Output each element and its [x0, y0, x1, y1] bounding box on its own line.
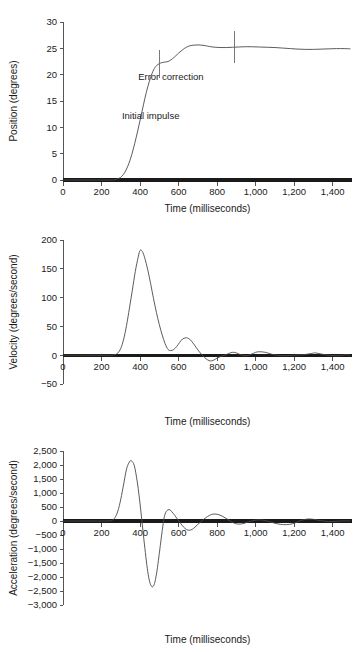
panel-position: 05101520253002004006008001,0001,2001,400… [0, 0, 362, 218]
x-tick-label: 600 [171, 527, 187, 538]
x-tick-label: 400 [132, 186, 148, 197]
kinematics-figure: 05101520253002004006008001,0001,2001,400… [0, 0, 362, 652]
y-tick-label: 0 [52, 350, 57, 361]
x-axis-title: Time (milliseconds) [165, 203, 251, 214]
x-tick-label: 1,200 [282, 527, 306, 538]
x-tick-label: 1,000 [244, 361, 268, 372]
y-tick-label: 0 [52, 174, 57, 185]
y-tick-label: 1,000 [33, 487, 57, 498]
x-tick-label: 600 [171, 186, 187, 197]
x-tick-label: 1,400 [321, 361, 345, 372]
y-tick-label: 30 [46, 16, 57, 27]
y-tick-label: −2,000 [28, 571, 57, 582]
y-tick-label: 25 [46, 43, 57, 54]
y-tick-label: 2,000 [33, 459, 57, 470]
x-tick-label: 200 [94, 186, 110, 197]
y-tick-label: 500 [41, 501, 57, 512]
x-tick-label: 0 [60, 186, 65, 197]
position-chart: 05101520253002004006008001,0001,2001,400… [0, 0, 362, 218]
x-tick-label: 0 [60, 527, 65, 538]
x-tick-label: 1,400 [321, 527, 345, 538]
x-axis-title: Time (milliseconds) [165, 416, 251, 427]
x-tick-label: 200 [94, 527, 110, 538]
y-axis-title: Velocity (degrees/second) [8, 254, 19, 369]
x-axis-title: Time (milliseconds) [165, 634, 251, 645]
data-curve-position [63, 45, 350, 180]
y-tick-label: 1,500 [33, 473, 57, 484]
x-tick-label: 600 [171, 361, 187, 372]
y-tick-label: 100 [41, 292, 57, 303]
x-tick-label: 800 [209, 361, 225, 372]
y-tick-label: −3,000 [28, 599, 57, 610]
y-tick-label: 200 [41, 234, 57, 245]
panel-velocity: −5005010015020002004006008001,0001,2001,… [0, 218, 362, 433]
x-tick-label: 1,200 [282, 361, 306, 372]
x-tick-label: 800 [209, 527, 225, 538]
y-tick-label: 150 [41, 263, 57, 274]
y-tick-label: −50 [41, 378, 57, 389]
x-tick-label: 1,200 [282, 186, 306, 197]
x-tick-label: 1,400 [321, 186, 345, 197]
x-tick-label: 1,000 [244, 527, 268, 538]
chart-annotation: Initial impulse [122, 110, 180, 121]
y-tick-label: −2,500 [28, 585, 57, 596]
y-axis-title: Acceleration (degrees/second) [8, 460, 19, 596]
x-tick-label: 800 [209, 186, 225, 197]
y-tick-label: −1,000 [28, 543, 57, 554]
y-tick-label: 5 [52, 148, 57, 159]
y-tick-label: 50 [46, 321, 57, 332]
velocity-chart: −5005010015020002004006008001,0001,2001,… [0, 218, 362, 433]
y-tick-label: 20 [46, 69, 57, 80]
y-tick-label: 2,500 [33, 445, 57, 456]
x-tick-label: 400 [132, 527, 148, 538]
data-curve-velocity [63, 250, 350, 361]
x-tick-label: 200 [94, 361, 110, 372]
chart-annotation: Error correction [138, 71, 203, 82]
x-tick-label: 1,000 [244, 186, 268, 197]
x-tick-label: 400 [132, 361, 148, 372]
data-curve-acceleration [63, 461, 350, 587]
y-tick-label: 0 [52, 515, 57, 526]
y-tick-label: 15 [46, 95, 57, 106]
y-tick-label: −500 [36, 529, 57, 540]
x-tick-label: 0 [60, 361, 65, 372]
y-tick-label: 10 [46, 122, 57, 133]
y-tick-label: −1,500 [28, 557, 57, 568]
y-axis-title: Position (degrees) [8, 60, 19, 141]
acceleration-chart: −3,000−2,500−2,000−1,500−1,000−50005001,… [0, 433, 362, 652]
panel-acceleration: −3,000−2,500−2,000−1,500−1,000−50005001,… [0, 433, 362, 652]
